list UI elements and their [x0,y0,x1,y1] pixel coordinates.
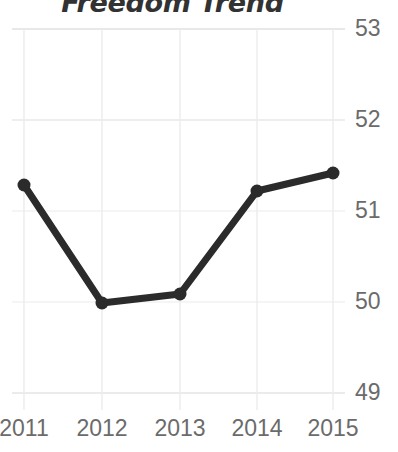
y-tick-label-53: 53 [355,17,395,40]
data-point-2014 [251,185,264,198]
line-chart-plot [0,0,398,452]
x-tick-label-2013: 2013 [145,417,215,440]
vertical-gridlines [24,29,333,410]
y-tick-label-50: 50 [355,290,395,313]
chart-container: Freedom Trend 53 52 [0,0,398,452]
x-tick-label-2011: 2011 [0,417,59,440]
data-point-markers [18,167,340,310]
data-point-2012 [96,297,109,310]
x-tick-label-2014: 2014 [222,417,292,440]
y-tick-label-49: 49 [355,381,395,404]
data-point-2011 [18,179,31,192]
y-tick-label-51: 51 [355,199,395,222]
horizontal-gridlines [12,29,345,393]
y-tick-label-52: 52 [355,108,395,131]
data-series-line [24,173,333,303]
x-tick-label-2015: 2015 [298,417,368,440]
data-point-2015 [327,167,340,180]
data-point-2013 [174,288,187,301]
x-tick-label-2012: 2012 [67,417,137,440]
